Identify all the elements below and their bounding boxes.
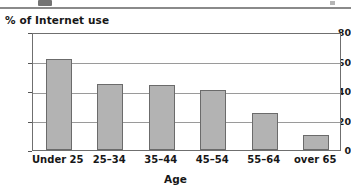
page-top-margin <box>0 0 351 6</box>
plot-area <box>32 33 341 151</box>
x-tick-label: Under 25 <box>32 155 84 165</box>
x-tick-label: 45–54 <box>187 155 239 165</box>
bar <box>303 135 329 150</box>
bar <box>46 59 72 150</box>
cut-off-artifact-right <box>330 1 335 5</box>
x-tick-label: 55–64 <box>238 155 290 165</box>
gridline <box>33 122 340 123</box>
cut-off-artifact <box>38 0 52 6</box>
bar <box>149 85 175 150</box>
x-axis-title: Age <box>0 173 351 185</box>
bar <box>97 84 123 150</box>
x-tick-label: 35–44 <box>135 155 187 165</box>
gridline <box>33 93 340 94</box>
bar <box>200 90 226 150</box>
gridline <box>33 63 340 64</box>
chart-title: % of Internet use <box>5 14 109 26</box>
bar-chart-figure: % of Internet use 020406080 Under 2525–3… <box>0 9 351 191</box>
bar <box>252 113 278 150</box>
x-tick-label: over 65 <box>290 155 342 165</box>
y-tick-mark <box>28 151 32 152</box>
x-tick-label: 25–34 <box>84 155 136 165</box>
